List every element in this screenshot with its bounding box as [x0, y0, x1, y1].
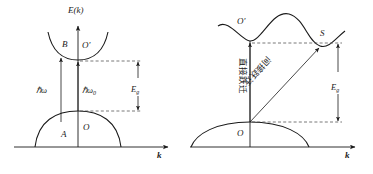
- band-structure-figure: E(k) k A O B O′ ℏω ℏω0: [0, 0, 373, 174]
- right-label-O: O: [237, 128, 244, 138]
- right-panel-group: k O′ S O Eg 直接跃迁 间接跃迁: [190, 14, 355, 160]
- right-k-axis-label: k: [345, 150, 350, 160]
- left-label-photon-hw: ℏω: [36, 85, 47, 95]
- left-panel-group: E(k) k A O B O′ ℏω ℏω0: [14, 5, 168, 160]
- right-label-band-gap: Eg: [330, 82, 339, 93]
- left-label-photon-hw0: ℏω0: [82, 85, 96, 96]
- left-label-B: B: [62, 39, 68, 49]
- left-k-axis-label: k: [157, 150, 162, 160]
- left-label-band-gap: Eg: [130, 84, 139, 95]
- right-label-O-prime: O′: [237, 16, 246, 26]
- left-energy-axis-label: E(k): [67, 5, 84, 15]
- right-label-S: S: [320, 28, 325, 38]
- left-label-O: O: [83, 122, 90, 132]
- right-indirect-transition-arrow: [250, 48, 319, 122]
- left-label-A: A: [60, 129, 67, 139]
- left-label-O-prime: O′: [82, 40, 91, 50]
- figure-svg: E(k) k A O B O′ ℏω ℏω0: [0, 0, 373, 174]
